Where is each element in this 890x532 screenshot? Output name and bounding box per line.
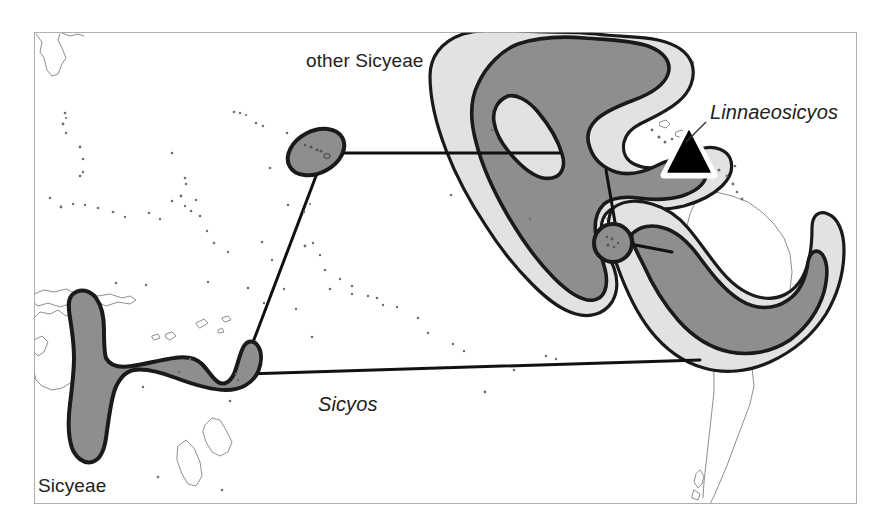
island-dot	[247, 287, 250, 290]
island-dot	[142, 386, 144, 388]
island-dot	[82, 171, 84, 173]
island-dot	[316, 149, 319, 152]
island-dot	[734, 165, 737, 168]
island-dot	[741, 198, 744, 201]
island-dot	[545, 355, 548, 358]
island-dot	[239, 112, 241, 114]
island-dot	[207, 281, 209, 283]
island-dot	[112, 211, 115, 214]
label-linnaeosicyos: Linnaeosicyos	[710, 101, 838, 124]
island-dot	[664, 141, 667, 144]
island-dot	[235, 373, 238, 376]
island-dot	[84, 204, 86, 206]
biogeographic-map-figure: other Sicyeae Linnaeosicyos Sicyos Sicye…	[0, 0, 890, 532]
island-dot	[65, 132, 67, 134]
island-dot	[611, 238, 614, 241]
island-dot	[286, 132, 289, 135]
island-dot	[351, 285, 354, 288]
label-sicyos: Sicyos	[318, 393, 378, 416]
island-dot	[237, 379, 239, 381]
island-dot	[60, 206, 63, 209]
island-dot	[72, 203, 74, 205]
island-dot	[304, 144, 307, 147]
island-dot	[199, 215, 202, 218]
island-dot	[245, 114, 247, 116]
island-dot	[295, 308, 297, 310]
island-dot	[206, 230, 208, 232]
island-dot	[312, 242, 314, 244]
island-dot	[233, 111, 236, 114]
island-dot	[185, 183, 187, 185]
island-dot	[617, 242, 619, 244]
island-dot	[262, 125, 264, 127]
island-dot	[97, 207, 100, 210]
island-dot	[184, 205, 186, 207]
island-dot	[180, 195, 183, 198]
island-dot	[529, 218, 532, 221]
island-dot	[606, 236, 608, 238]
island-dot	[227, 251, 229, 253]
range-galapagos-circle	[594, 224, 632, 262]
island-dot	[157, 476, 160, 479]
island-dot	[148, 212, 151, 215]
island-dot	[513, 369, 516, 372]
island-dot	[324, 269, 327, 272]
island-dot	[484, 391, 487, 394]
island-dot	[329, 288, 332, 291]
island-dot	[263, 302, 265, 304]
island-dot	[450, 194, 453, 197]
island-dot	[184, 177, 187, 180]
island-dot	[311, 336, 314, 339]
island-dot	[213, 242, 216, 245]
island-dot	[283, 288, 285, 290]
island-dot	[382, 304, 384, 306]
island-dot	[79, 146, 82, 149]
island-dot	[396, 306, 398, 308]
island-dot	[417, 317, 420, 320]
island-dot	[79, 175, 82, 178]
island-dot	[171, 200, 174, 203]
island-dot	[229, 400, 232, 403]
island-dot	[62, 123, 65, 126]
island-dot	[452, 343, 455, 346]
island-dot	[171, 152, 174, 155]
island-dot	[351, 293, 353, 295]
island-dot	[115, 282, 118, 285]
island-dot	[178, 371, 181, 374]
island-dot	[261, 241, 264, 244]
island-dot	[304, 245, 307, 248]
island-dot	[145, 284, 147, 286]
island-dot	[64, 112, 67, 115]
island-dot	[189, 358, 191, 360]
island-dot	[376, 297, 379, 300]
island-dot	[732, 183, 735, 186]
label-sicyeae: Sicyeae	[38, 475, 106, 497]
island-dot	[606, 243, 609, 246]
label-other-sicyeae: other Sicyeae	[306, 50, 423, 72]
island-dot	[190, 210, 193, 213]
island-dot	[159, 218, 161, 220]
island-dot	[255, 122, 258, 125]
island-dot	[319, 254, 321, 256]
island-dot	[463, 350, 465, 352]
island-dot	[555, 358, 557, 360]
island-dot	[82, 158, 85, 161]
island-dot	[613, 246, 616, 249]
island-dot	[491, 129, 494, 132]
island-dot	[309, 203, 311, 205]
island-dot	[726, 175, 729, 178]
island-dot	[309, 145, 312, 148]
island-dot	[427, 332, 429, 334]
island-dot	[221, 489, 224, 492]
island-dot	[320, 150, 323, 153]
island-dot	[718, 169, 721, 172]
island-dot	[124, 216, 126, 218]
island-dot	[49, 197, 52, 200]
island-dot	[65, 117, 67, 119]
island-dot	[303, 211, 305, 213]
map-canvas	[0, 0, 890, 532]
island-dot	[269, 167, 272, 170]
island-dot	[736, 191, 739, 194]
island-dot	[271, 259, 273, 261]
island-dot	[671, 138, 674, 141]
